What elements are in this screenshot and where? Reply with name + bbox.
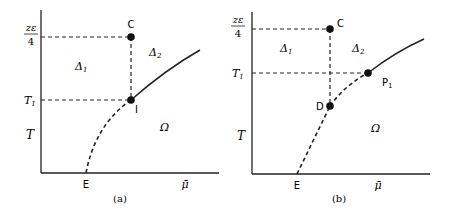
y-axis-label-b: T	[237, 129, 246, 143]
dashed-d-p1-b	[330, 73, 368, 106]
region-omega-a: Ω	[159, 121, 169, 134]
dashed-e-d-b	[297, 106, 330, 174]
label-c-a: C	[128, 19, 135, 30]
caption-a: (a)	[113, 193, 127, 204]
label-c-b: C	[337, 18, 344, 29]
region-delta1-b: Δ1	[279, 42, 292, 56]
xtick-e-b: E	[294, 180, 300, 191]
ytick-ze-b: zε	[232, 14, 244, 25]
caption-b: (b)	[332, 193, 346, 204]
ytick-t1-a: T1	[24, 94, 36, 108]
region-delta1-a: Δ1	[74, 60, 87, 74]
region-omega-b: Ω	[370, 122, 380, 135]
y-axis-label-a: T	[26, 128, 35, 142]
ytick-t1-b: T1	[232, 67, 244, 81]
point-p1-b	[364, 69, 372, 77]
ytick-4-b: 4	[235, 28, 241, 39]
x-axis-label-a: μ̄	[181, 178, 188, 191]
label-d-b: D	[316, 101, 324, 112]
ytick-4-a: 4	[28, 36, 34, 47]
panel-b: zε 4 T1 T E μ̄ (b) C D P1 Δ1 Δ2 Ω	[231, 12, 430, 204]
solid-curve-b	[368, 39, 424, 73]
label-i-a: I	[135, 104, 138, 115]
point-c-a	[127, 33, 135, 41]
phase-diagrams: zε 4 T1 T E μ̄ (a) C I Δ1 Δ2 Ω zε 4 T1 T…	[0, 0, 449, 216]
panel-a: zε 4 T1 T E μ̄ (a) C I Δ1 Δ2 Ω	[24, 10, 219, 204]
solid-curve-a	[131, 50, 200, 100]
point-i-a	[127, 96, 135, 104]
label-p1-b: P1	[382, 77, 393, 90]
xtick-e-a: E	[83, 179, 89, 190]
ytick-ze-a: zε	[25, 22, 37, 33]
point-c-b	[326, 25, 334, 33]
x-axis-label-b: μ̄	[374, 179, 381, 192]
dashed-curve-e-i-a	[86, 100, 131, 173]
region-delta2-b: Δ2	[351, 42, 365, 56]
point-d-b	[326, 102, 334, 110]
region-delta2-a: Δ2	[148, 46, 162, 60]
